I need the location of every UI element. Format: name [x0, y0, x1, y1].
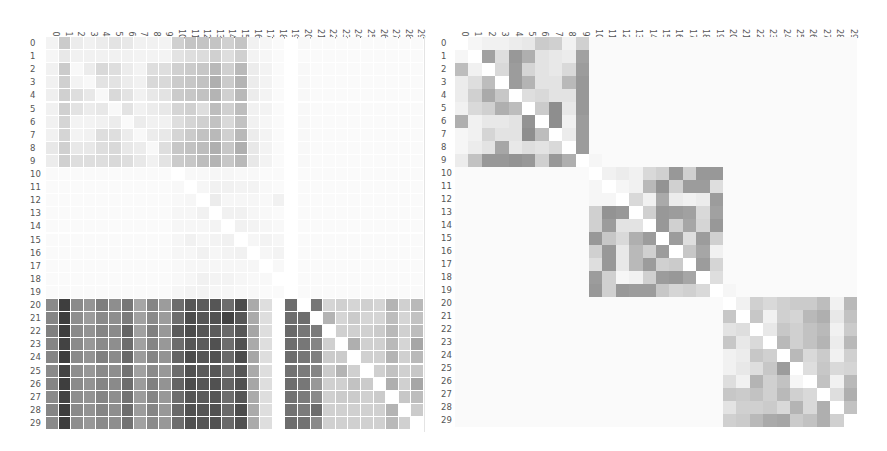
- heatmap-cell: [710, 180, 723, 193]
- heatmap-cell: [495, 310, 508, 323]
- heatmap-cell: [535, 50, 548, 63]
- heatmap-cell: [669, 310, 682, 323]
- heatmap-cell: [817, 284, 830, 297]
- heatmap-cell: [777, 297, 790, 310]
- heatmap-cell: [468, 180, 481, 193]
- heatmap-cell: [643, 154, 656, 167]
- heatmap-cell: [683, 323, 696, 336]
- heatmap-cell: [482, 297, 495, 310]
- heatmap-cell: [736, 323, 749, 336]
- heatmap-cell: [844, 323, 857, 336]
- y-tick-label: 5: [441, 102, 446, 114]
- heatmap-cell: [468, 271, 481, 284]
- heatmap-cell: [736, 310, 749, 323]
- heatmap-cell: [522, 128, 535, 141]
- heatmap-cell: [602, 50, 615, 63]
- heatmap-cell: [696, 206, 709, 219]
- heatmap-cell: [629, 76, 642, 89]
- heatmap-cell: [683, 167, 696, 180]
- heatmap-cell: [509, 89, 522, 102]
- heatmap-cell: [602, 414, 615, 427]
- heatmap-cell: [683, 206, 696, 219]
- heatmap-cell: [482, 414, 495, 427]
- heatmap-cell: [683, 362, 696, 375]
- heatmap-cell: [455, 349, 468, 362]
- heatmap-cell: [777, 336, 790, 349]
- heatmap-cell: [683, 63, 696, 76]
- heatmap-cell: [522, 141, 535, 154]
- heatmap-cell: [750, 180, 763, 193]
- heatmap-cell: [669, 102, 682, 115]
- heatmap-cell: [830, 310, 843, 323]
- heatmap-cell: [763, 323, 776, 336]
- heatmap-cell: [495, 297, 508, 310]
- heatmap-cell: [549, 388, 562, 401]
- heatmap-cell: [669, 180, 682, 193]
- heatmap-cell: [482, 50, 495, 63]
- heatmap-cell: [509, 414, 522, 427]
- heatmap-cell: [844, 245, 857, 258]
- heatmap-cell: [817, 336, 830, 349]
- heatmap-cell: [602, 180, 615, 193]
- heatmap-cell: [562, 115, 575, 128]
- heatmap-cell: [830, 362, 843, 375]
- heatmap-cell: [683, 50, 696, 63]
- heatmap-cell: [830, 63, 843, 76]
- heatmap-cell: [710, 193, 723, 206]
- heatmap-cell: [656, 167, 669, 180]
- heatmap-cell: [790, 115, 803, 128]
- heatmap-cell: [495, 258, 508, 271]
- heatmap-cell: [723, 219, 736, 232]
- heatmap-cell: [602, 336, 615, 349]
- heatmap-cell: [576, 232, 589, 245]
- heatmap-cell: [750, 89, 763, 102]
- heatmap-cell: [803, 245, 816, 258]
- heatmap-cell: [629, 245, 642, 258]
- heatmap-cell: [750, 414, 763, 427]
- heatmap-cell: [562, 401, 575, 414]
- heatmap-cell: [710, 206, 723, 219]
- heatmap-cell: [535, 89, 548, 102]
- heatmap-cell: [455, 63, 468, 76]
- heatmap-cell: [696, 375, 709, 388]
- heatmap-cell: [830, 388, 843, 401]
- heatmap-cell: [562, 63, 575, 76]
- heatmap-cell: [683, 193, 696, 206]
- heatmap-cell: [643, 89, 656, 102]
- heatmap-cell: [790, 245, 803, 258]
- heatmap-cell: [669, 89, 682, 102]
- heatmap-cell: [468, 310, 481, 323]
- heatmap-cell: [763, 50, 776, 63]
- heatmap-cell: [790, 336, 803, 349]
- heatmap-cell: [830, 193, 843, 206]
- heatmap-cell: [656, 193, 669, 206]
- heatmap-cell: [790, 414, 803, 427]
- heatmap-cell: [790, 388, 803, 401]
- heatmap-cell: [844, 284, 857, 297]
- heatmap-cell: [629, 206, 642, 219]
- heatmap-cell: [522, 375, 535, 388]
- heatmap-cell: [710, 323, 723, 336]
- heatmap-cell: [562, 154, 575, 167]
- heatmap-cell: [790, 89, 803, 102]
- heatmap-cell: [736, 362, 749, 375]
- heatmap-cell: [777, 349, 790, 362]
- heatmap-cell: [643, 245, 656, 258]
- heatmap-cell: [509, 323, 522, 336]
- heatmap-cell: [777, 284, 790, 297]
- heatmap-cell: [643, 388, 656, 401]
- heatmap-cell: [723, 115, 736, 128]
- heatmap-cell: [656, 271, 669, 284]
- heatmap-cell: [790, 232, 803, 245]
- heatmap-cell: [509, 102, 522, 115]
- heatmap-cell: [830, 154, 843, 167]
- heatmap-cell: [817, 206, 830, 219]
- heatmap-cell: [830, 297, 843, 310]
- heatmap-cell: [803, 388, 816, 401]
- heatmap-cell: [830, 50, 843, 63]
- y-tick-label: 13: [441, 206, 452, 218]
- heatmap-cell: [817, 154, 830, 167]
- heatmap-cell: [576, 115, 589, 128]
- heatmap-cell: [683, 284, 696, 297]
- heatmap-cell: [830, 89, 843, 102]
